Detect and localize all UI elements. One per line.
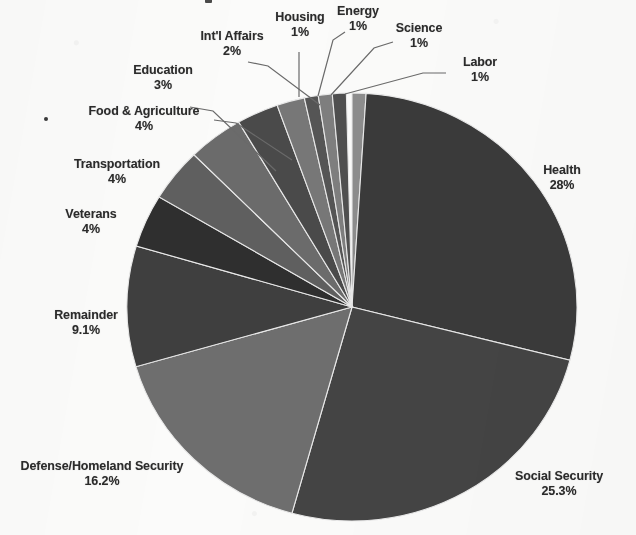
pie-chart: Housing 1% Energy 1% Science 1% Labor 1%… bbox=[0, 0, 636, 535]
slice-label-education-name: Education bbox=[115, 63, 211, 78]
slice-label-labor-pct: 1% bbox=[446, 70, 514, 85]
slice-label-energy-name: Energy bbox=[322, 4, 394, 19]
slice-label-labor-name: Labor bbox=[446, 55, 514, 70]
slice-label-food-agriculture-pct: 4% bbox=[72, 119, 216, 134]
slice-label-education-pct: 3% bbox=[115, 78, 211, 93]
slice-label-science-name: Science bbox=[381, 21, 457, 36]
pie-slices bbox=[127, 93, 577, 521]
slice-label-intl-affairs-pct: 2% bbox=[182, 44, 282, 59]
slice-label-veterans: Veterans 4% bbox=[45, 207, 137, 237]
slice-label-veterans-pct: 4% bbox=[45, 222, 137, 237]
slice-label-food-agriculture-name: Food & Agriculture bbox=[72, 104, 216, 119]
slice-label-intl-affairs: Int'l Affairs 2% bbox=[182, 29, 282, 59]
slice-label-education: Education 3% bbox=[115, 63, 211, 93]
slice-label-transportation: Transportation 4% bbox=[54, 157, 180, 187]
slice-label-health: Health 28% bbox=[526, 163, 598, 193]
slice-label-veterans-name: Veterans bbox=[45, 207, 137, 222]
slice-label-defense-pct: 16.2% bbox=[6, 474, 198, 489]
slice-label-social-security-name: Social Security bbox=[496, 469, 622, 484]
slice-label-transportation-name: Transportation bbox=[54, 157, 180, 172]
slice-label-science: Science 1% bbox=[381, 21, 457, 51]
pie-chart-graphic bbox=[0, 0, 636, 535]
slice-label-intl-affairs-name: Int'l Affairs bbox=[182, 29, 282, 44]
slice-label-food-agriculture: Food & Agriculture 4% bbox=[72, 104, 216, 134]
slice-label-social-security-pct: 25.3% bbox=[496, 484, 622, 499]
slice-label-social-security: Social Security 25.3% bbox=[496, 469, 622, 499]
slice-label-health-name: Health bbox=[526, 163, 598, 178]
slice-label-defense-name: Defense/Homeland Security bbox=[6, 459, 198, 474]
leader-line-labor bbox=[345, 73, 446, 94]
clipped-title-descender bbox=[205, 0, 212, 3]
slice-label-labor: Labor 1% bbox=[446, 55, 514, 85]
slice-label-remainder: Remainder 9.1% bbox=[36, 308, 136, 338]
leader-line-energy bbox=[318, 32, 345, 96]
slice-label-remainder-pct: 9.1% bbox=[36, 323, 136, 338]
slice-label-transportation-pct: 4% bbox=[54, 172, 180, 187]
stray-bullet-dot bbox=[44, 117, 48, 121]
slice-label-health-pct: 28% bbox=[526, 178, 598, 193]
slice-label-science-pct: 1% bbox=[381, 36, 457, 51]
slice-label-remainder-name: Remainder bbox=[36, 308, 136, 323]
slice-label-defense: Defense/Homeland Security 16.2% bbox=[6, 459, 198, 489]
